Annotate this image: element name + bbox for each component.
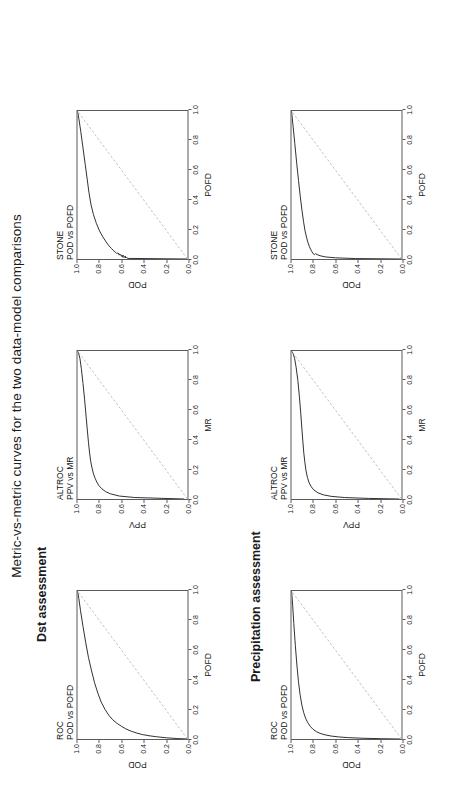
y-tick-label: 0.4 [140,744,147,754]
y-tickmark [121,740,122,743]
y-tickmark [335,740,336,743]
y-tickmark [402,740,403,743]
y-tick-label: 0.8 [95,264,102,274]
y-tickmark [76,500,77,503]
y-tick-label: 0.0 [185,504,192,514]
y-tickmark [357,500,358,503]
x-axis-label-dst-roc: POFD [202,590,212,740]
figure-canvas: Metric-vs-metric curves for the two data… [0,0,455,792]
y-tickmark [143,740,144,743]
x-tick-label: 0.4 [191,435,198,445]
y-tick-label: 0.6 [331,744,338,754]
x-tick-label: 0.8 [405,135,412,145]
series-roc-curve [291,591,400,739]
series-stone-curve [77,111,187,259]
y-tick-label: 1.0 [287,504,294,514]
panel-precip-stone: STONE POD vs POFD0.00.20.40.60.81.00.00.… [266,94,436,294]
section-header-precipitation: Precipitation assessment [248,531,262,682]
x-tick-label: 0.8 [191,135,198,145]
plot-area-dst-roc [76,590,188,740]
y-tickmark [143,500,144,503]
x-tick-label: 0.2 [191,705,198,715]
panel-dst-roc: ROC POD vs POFD0.00.20.40.60.81.00.00.20… [52,574,222,774]
y-tick-label: 0.8 [95,744,102,754]
x-tick-label: 0.2 [191,225,198,235]
series-altroc-curve [77,351,184,499]
x-tick-label: 0.4 [405,435,412,445]
y-tick-label: 1.0 [73,504,80,514]
y-tickmark [98,740,99,743]
x-tick-label: 0.8 [191,375,198,385]
panel-title-precip-stone: STONE POD vs POFD [268,110,288,260]
x-tick-label: 0.4 [405,195,412,205]
y-axis-label-dst-roc: POD [102,760,172,770]
y-axis-label-precip-altroc: PPV [316,520,386,530]
y-tick-label: 0.4 [140,264,147,274]
y-tick-label: 0.2 [376,504,383,514]
plot-area-dst-altroc [76,350,188,500]
x-tick-label: 0.6 [405,405,412,415]
panel-dst-stone: STONE POD vs POFD0.00.20.40.60.81.00.00.… [52,94,222,294]
y-tick-label: 1.0 [287,264,294,274]
y-tickmark [290,500,291,503]
y-tickmark [380,740,381,743]
y-tick-label: 0.4 [354,264,361,274]
x-tick-label: 0.0 [191,735,198,745]
series-stone-curve [291,111,401,259]
y-tickmark [188,260,189,263]
panel-precip-roc: ROC POD vs POFD0.00.20.40.60.81.00.00.20… [266,574,436,774]
y-tickmark [121,500,122,503]
y-tick-label: 1.0 [73,264,80,274]
y-tick-label: 0.4 [354,504,361,514]
y-tick-label: 0.6 [117,504,124,514]
x-tick-label: 0.6 [191,645,198,655]
panel-precip-altroc: ALTROC PPV vs MR0.00.20.40.60.81.00.00.2… [266,334,436,534]
y-tickmark [357,740,358,743]
panel-title-precip-altroc: ALTROC PPV vs MR [268,350,288,500]
y-tick-label: 0.2 [162,744,169,754]
y-tick-label: 0.2 [376,744,383,754]
x-tick-label: 0.0 [191,495,198,505]
x-tick-label: 0.4 [191,195,198,205]
y-tickmark [312,260,313,263]
y-axis-label-precip-stone: POD [316,280,386,290]
y-tick-label: 0.0 [185,744,192,754]
y-tickmark [76,260,77,263]
y-tick-label: 1.0 [287,744,294,754]
y-tick-label: 0.6 [117,264,124,274]
y-tick-label: 0.2 [162,504,169,514]
x-tick-label: 0.0 [191,255,198,265]
y-tick-label: 0.8 [309,504,316,514]
panel-dst-altroc: ALTROC PPV vs MR0.00.20.40.60.81.00.00.2… [52,334,222,534]
y-axis-label-dst-altroc: PPV [102,520,172,530]
y-tick-label: 1.0 [73,744,80,754]
plot-area-dst-stone [76,110,188,260]
plot-area-precip-roc [290,590,402,740]
y-tickmark [335,260,336,263]
x-axis-label-dst-stone: POFD [202,110,212,260]
series-no-skill-diagonal [291,591,401,739]
y-tickmark [335,500,336,503]
x-tick-label: 0.8 [405,615,412,625]
y-tick-label: 0.6 [117,744,124,754]
x-axis-label-precip-roc: POFD [416,590,426,740]
y-tick-label: 0.8 [95,504,102,514]
y-tickmark [166,500,167,503]
y-tickmark [121,260,122,263]
x-tick-label: 0.2 [191,465,198,475]
x-axis-label-precip-altroc: MR [416,350,426,500]
y-axis-label-precip-roc: POD [316,760,386,770]
y-tick-label: 0.4 [354,744,361,754]
y-tick-label: 0.2 [162,264,169,274]
x-tick-label: 0.2 [405,225,412,235]
y-tickmark [166,260,167,263]
x-tick-label: 0.0 [405,255,412,265]
section-header-dst: Dst assessment [34,547,48,642]
panel-title-dst-altroc: ALTROC PPV vs MR [54,350,74,500]
y-tick-label: 0.8 [309,744,316,754]
y-tickmark [380,500,381,503]
y-tick-label: 0.2 [376,264,383,274]
x-tick-label: 0.6 [405,645,412,655]
x-tick-label: 1.0 [191,585,198,595]
x-axis-label-precip-stone: POFD [416,110,426,260]
